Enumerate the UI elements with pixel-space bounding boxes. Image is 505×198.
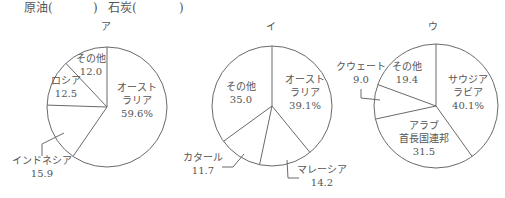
- slice-label: アラブ: [409, 119, 439, 131]
- slice-サウジアラビア: サウジアラビア40.1%: [448, 74, 488, 111]
- slice-カタール: カタール11.7: [183, 152, 244, 176]
- slice-value: 14.2: [311, 177, 333, 188]
- slice-label: クウェート: [336, 61, 386, 72]
- slice-value: 59.6%: [121, 108, 153, 119]
- slice-value: 19.4: [396, 74, 418, 85]
- slice-label: マレーシア: [297, 164, 347, 175]
- slice-value: 15.9: [31, 168, 53, 179]
- slice-value: 12.0: [80, 66, 102, 77]
- slice-value: 9.0: [353, 74, 369, 85]
- slice-value: 39.1%: [289, 100, 321, 111]
- slice-label: その他: [392, 60, 422, 72]
- slice-label: オースト: [117, 82, 157, 93]
- slice-label: ラリア: [122, 95, 152, 106]
- slice-label: インドネシア: [12, 155, 72, 166]
- slice-オーストラリア: オーストラリア39.1%: [285, 74, 325, 111]
- slice-label: ラビア: [453, 87, 483, 98]
- slice-マレーシア: マレーシア14.2: [287, 160, 347, 188]
- chart-title: ウ: [428, 21, 438, 32]
- slice-label: 首長国連邦: [399, 132, 449, 144]
- pie-chart-i: イオーストラリア39.1%マレーシア14.2カタール11.7その他35.0: [183, 21, 347, 188]
- slice-オーストラリア: オーストラリア59.6%: [117, 82, 157, 119]
- chart-title: ア: [101, 21, 111, 32]
- slice-value: 11.7: [192, 165, 214, 176]
- slice-label: カタール: [183, 152, 223, 163]
- pie-charts: アオーストラリア59.6%インドネシア15.9ロシア12.5その他12.0 イオ…: [0, 0, 505, 198]
- slice-value: 12.5: [55, 88, 77, 99]
- slice-value: 31.5: [413, 146, 435, 157]
- slice-value: 40.1%: [452, 100, 484, 111]
- slice-value: 35.0: [230, 94, 252, 105]
- slice-label: その他: [76, 52, 106, 64]
- slice-label: ロシア: [51, 75, 81, 86]
- pie-chart-a: アオーストラリア59.6%インドネシア15.9ロシア12.5その他12.0: [12, 21, 167, 179]
- slice-label: ラリア: [290, 87, 320, 98]
- slice-label: その他: [226, 80, 256, 92]
- pie-chart-u: ウサウジアラビア40.1%アラブ首長国連邦31.5クウェート9.0その他19.4: [336, 21, 498, 168]
- slice-label: サウジア: [448, 74, 488, 85]
- chart-title: イ: [266, 21, 276, 32]
- slice-label: オースト: [285, 74, 325, 85]
